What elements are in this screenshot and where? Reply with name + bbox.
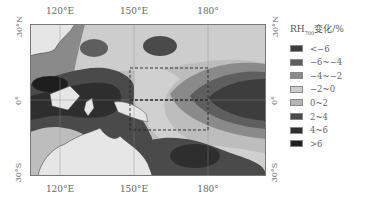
legend-label: 2~4	[310, 112, 328, 122]
legend-swatch	[290, 86, 303, 93]
lat-tick-right-30s: 30°S	[270, 163, 279, 183]
lat-tick-right-30n: 30°N	[271, 16, 280, 37]
lon-tick-bottom-150e: 150°E	[120, 184, 148, 194]
blob-north-central	[143, 36, 177, 56]
legend-item: 2~4	[290, 110, 344, 124]
legend-title-sub: 700	[305, 30, 315, 36]
legend-label: <−6	[310, 44, 330, 54]
lon-tick-top-150e: 150°E	[120, 6, 148, 16]
legend-item: −4~−2	[290, 69, 344, 83]
legend-title-main: RH	[290, 24, 305, 34]
legend-items: <−6−6~−4−4~−2−2~00~22~44~6>6	[290, 42, 344, 151]
legend-label: 4~6	[310, 125, 328, 135]
legend-swatch	[290, 140, 303, 147]
legend-swatch	[290, 113, 303, 120]
blob-north-west	[80, 39, 108, 57]
legend-swatch	[290, 45, 303, 52]
legend-title: RH700变化/%	[290, 22, 344, 36]
legend-swatch	[290, 59, 303, 66]
legend-label: −4~−2	[310, 71, 342, 81]
legend-label: >6	[310, 139, 323, 149]
lat-tick-right-0: 0°	[270, 96, 279, 105]
legend-item: −6~−4	[290, 55, 344, 69]
rh700-change-map	[30, 24, 266, 176]
legend-label: 0~2	[310, 98, 328, 108]
legend-swatch	[290, 127, 303, 134]
legend-label: −2~0	[310, 84, 335, 94]
lon-tick-bottom-180: 180°	[197, 184, 219, 194]
legend-swatch	[290, 99, 303, 106]
legend-item: <−6	[290, 42, 344, 56]
legend: RH700变化/% <−6−6~−4−4~−2−2~00~22~44~6>6	[290, 22, 344, 151]
legend-label: −6~−4	[310, 57, 342, 67]
lon-tick-top-120e: 120°E	[46, 6, 74, 16]
legend-title-suffix: 变化/%	[314, 24, 344, 34]
lat-tick-left-30n: 30°N	[15, 16, 24, 37]
legend-item: 4~6	[290, 123, 344, 137]
lon-tick-top-180: 180°	[197, 6, 219, 16]
lat-tick-left-0: 0°	[14, 96, 23, 105]
lon-tick-bottom-120e: 120°E	[46, 184, 74, 194]
lat-tick-left-30s: 30°S	[14, 163, 23, 183]
blob-south-east-core	[170, 144, 220, 168]
legend-swatch	[290, 72, 303, 79]
legend-item: −2~0	[290, 83, 344, 97]
legend-item: 0~2	[290, 96, 344, 110]
legend-item: >6	[290, 137, 344, 151]
